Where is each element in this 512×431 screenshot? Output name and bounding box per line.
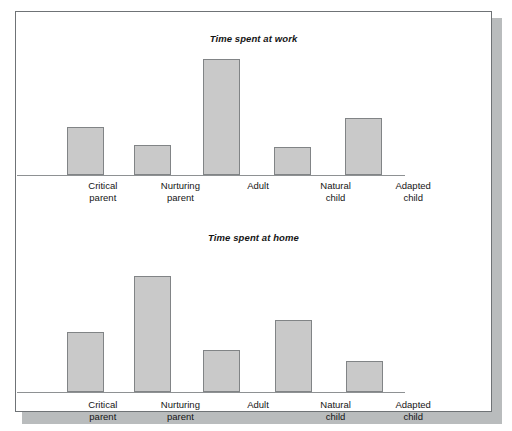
x-axis-labels-home: Critical parent Nurturing parent Adult N…	[64, 399, 452, 422]
x-label-home-critical-parent: Critical parent	[64, 399, 142, 422]
bar-work-adult	[203, 59, 240, 175]
x-label-home-adapted-child: Adapted child	[374, 399, 452, 422]
plot-area-home	[16, 248, 491, 393]
x-label-home-adult: Adult	[219, 399, 297, 422]
chart-time-spent-at-home: Time spent at home Critical parent Nurtu…	[16, 212, 491, 412]
figure-panel: Time spent at work Critical parent Nurtu…	[15, 11, 492, 412]
bar-home-adapted-child	[346, 361, 383, 392]
chart-title-work: Time spent at work	[16, 33, 491, 44]
bar-home-natural-child	[275, 320, 312, 393]
bar-work-nurturing-parent	[134, 145, 171, 175]
x-axis-line-home	[17, 392, 405, 393]
plot-area-work	[16, 46, 491, 176]
x-axis-labels-work: Critical parent Nurturing parent Adult N…	[64, 180, 452, 203]
bar-work-critical-parent	[67, 127, 104, 175]
x-label-home-natural-child: Natural child	[297, 399, 375, 422]
x-label-home-nurturing-parent: Nurturing parent	[142, 399, 220, 422]
x-label-work-adapted-child: Adapted child	[374, 180, 452, 203]
chart-time-spent-at-work: Time spent at work Critical parent Nurtu…	[16, 16, 491, 212]
x-label-work-nurturing-parent: Nurturing parent	[142, 180, 220, 203]
bar-home-adult	[203, 350, 240, 392]
x-axis-line-work	[17, 175, 405, 176]
x-label-work-adult: Adult	[219, 180, 297, 203]
bar-home-nurturing-parent	[134, 276, 171, 392]
x-label-work-natural-child: Natural child	[297, 180, 375, 203]
chart-title-home: Time spent at home	[16, 232, 491, 243]
bar-work-adapted-child	[345, 118, 382, 175]
bar-home-critical-parent	[67, 332, 104, 392]
x-label-work-critical-parent: Critical parent	[64, 180, 142, 203]
bar-work-natural-child	[274, 147, 311, 175]
